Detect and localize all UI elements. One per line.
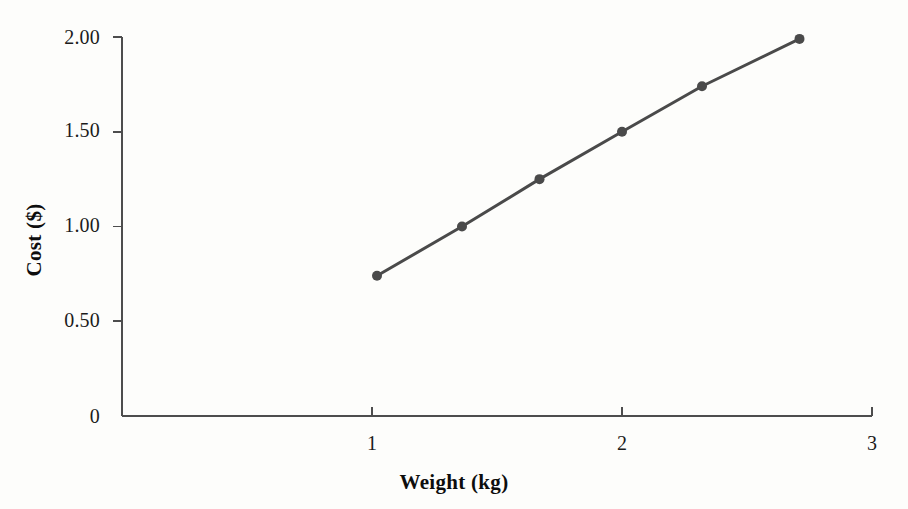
chart-figure: 2.00 1.50 1.00 0.50 0 1 2 3 Weight (kg) … <box>0 0 908 509</box>
y-tick-label-2-00: 2.00 <box>10 26 100 49</box>
x-tick-label-2: 2 <box>602 432 642 455</box>
data-point-marker <box>617 127 627 137</box>
data-point-marker <box>457 222 467 232</box>
data-point-marker <box>535 174 545 184</box>
series-line-0 <box>377 39 800 276</box>
x-tick-label-1: 1 <box>352 432 392 455</box>
tick-marks-group <box>113 37 872 416</box>
y-tick-label-0: 0 <box>10 405 100 428</box>
data-point-marker <box>697 81 707 91</box>
data-point-marker <box>372 271 382 281</box>
axes-group <box>122 37 872 416</box>
x-tick-label-3: 3 <box>852 432 892 455</box>
data-point-marker <box>795 34 805 44</box>
y-tick-label-1-50: 1.50 <box>10 119 100 142</box>
y-axis-title: Cost ($) <box>22 204 47 277</box>
plot-canvas <box>0 0 908 509</box>
x-axis-title: Weight (kg) <box>0 470 908 495</box>
data-series-group <box>372 34 805 281</box>
y-axis-title-wrapper: Cost ($) <box>14 140 54 340</box>
